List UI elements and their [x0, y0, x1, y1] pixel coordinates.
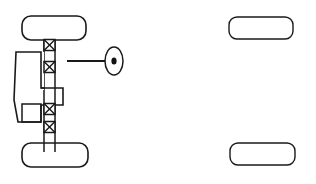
universal-joint-2 [44, 62, 55, 73]
diagram-canvas: Vehicle drivetrain / axle schematic (pla… [0, 0, 316, 184]
callout-center-dot [111, 57, 116, 64]
front-right-wheel [229, 17, 293, 39]
housing-lower-subbox [22, 104, 41, 122]
rear-right-wheel [230, 143, 295, 165]
universal-joint-group [44, 40, 55, 133]
front-left-wheel [22, 16, 86, 40]
universal-joint-1 [44, 40, 55, 51]
housing-upper-body [16, 52, 44, 90]
drive-shaft [44, 40, 55, 152]
universal-joint-3 [44, 104, 55, 115]
drivetrain-schematic [0, 0, 316, 184]
detail-callout-marker [67, 47, 123, 75]
universal-joint-4 [44, 122, 55, 133]
